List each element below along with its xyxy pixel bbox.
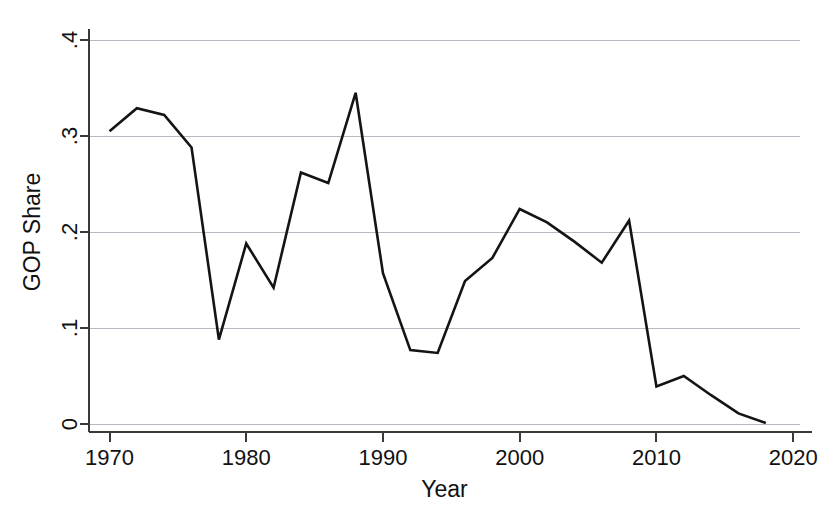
series-line-gop-share	[110, 93, 766, 423]
x-axis-title: Year	[421, 476, 468, 502]
x-tick-label: 2020	[769, 445, 818, 470]
y-tick-label: 0	[57, 418, 82, 430]
y-tick-labels-group: 0.1.2.3.4	[57, 31, 82, 430]
axes-group	[89, 29, 812, 432]
x-tick-label: 1980	[222, 445, 271, 470]
gridlines-group	[89, 40, 800, 424]
x-tick-label: 1970	[85, 445, 134, 470]
x-tick-labels-group: 197019801990200020102020	[85, 445, 818, 470]
data-series-group	[110, 93, 766, 423]
x-tick-label: 1990	[358, 445, 407, 470]
y-tick-label: .4	[57, 31, 82, 49]
x-tick-label: 2010	[632, 445, 681, 470]
x-tick-label: 2000	[495, 445, 544, 470]
chart-figure: 0.1.2.3.4 197019801990200020102020 YearG…	[0, 0, 840, 522]
y-tick-label: .2	[57, 223, 82, 241]
y-tick-label: .1	[57, 319, 82, 337]
x-tick-marks-group	[110, 432, 794, 442]
y-tick-label: .3	[57, 127, 82, 145]
line-chart-svg: 0.1.2.3.4 197019801990200020102020 YearG…	[0, 0, 840, 522]
y-axis-title: GOP Share	[19, 173, 45, 291]
